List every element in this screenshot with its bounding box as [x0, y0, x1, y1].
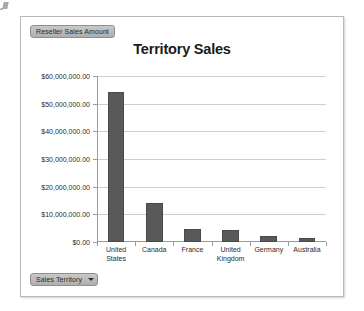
category-field-button[interactable]: Sales Territory — [30, 273, 98, 286]
bar-slot — [250, 76, 288, 242]
bar[interactable] — [184, 229, 201, 242]
plot-area: $60,000,000.00$50,000,000.00$40,000,000.… — [97, 76, 326, 242]
y-axis-tick-label: $60,000,000.00 — [41, 73, 90, 80]
chart-title: Territory Sales — [21, 41, 343, 57]
bar-slot — [212, 76, 250, 242]
bar-slot — [97, 76, 135, 242]
bar-series — [97, 76, 326, 242]
bar[interactable] — [299, 238, 316, 242]
bar[interactable] — [146, 203, 163, 242]
x-axis-label: United Kingdom — [212, 245, 250, 263]
legend-field-button[interactable]: Reseller Sales Amount — [30, 25, 115, 38]
legend-field-label: Reseller Sales Amount — [36, 28, 109, 35]
category-field-label: Sales Territory — [36, 276, 82, 283]
bar[interactable] — [222, 230, 239, 242]
x-axis-label: United States — [97, 245, 135, 263]
x-axis-label: Canada — [135, 245, 173, 263]
y-axis-tick-label: $0.00 — [72, 239, 90, 246]
bar-slot — [173, 76, 211, 242]
x-axis-label: Australia — [288, 245, 326, 263]
y-axis-tick-label: $20,000,000.00 — [41, 183, 90, 190]
y-axis-tick-label: $50,000,000.00 — [41, 100, 90, 107]
scan-artifact — [2, 2, 8, 9]
x-axis-label: France — [173, 245, 211, 263]
x-axis-labels: United StatesCanadaFranceUnited KingdomG… — [97, 245, 326, 263]
x-axis-label: Germany — [250, 245, 288, 263]
y-axis-tick-label: $10,000,000.00 — [41, 211, 90, 218]
bar[interactable] — [108, 92, 125, 242]
bar[interactable] — [260, 236, 277, 242]
y-axis-tick-label: $30,000,000.00 — [41, 156, 90, 163]
x-axis-tick — [326, 242, 327, 246]
bar-slot — [288, 76, 326, 242]
y-axis-tick-label: $40,000,000.00 — [41, 128, 90, 135]
chart-frame: Reseller Sales Amount Territory Sales $6… — [20, 16, 344, 297]
chevron-down-icon[interactable] — [88, 278, 94, 281]
bar-slot — [135, 76, 173, 242]
